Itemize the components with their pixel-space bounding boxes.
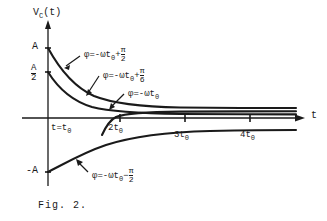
x-tick-label-t0-sub: 0 (67, 127, 71, 135)
figure-caption: Fig. 2. (38, 201, 87, 211)
leader-line-phi-plus-pi-6 (88, 76, 99, 93)
curve-label-phi-plus-pi-2: φ=-ωt0+ π 2 (84, 46, 125, 63)
x-axis-arrowhead (295, 115, 305, 122)
curve-label-phi-plus-pi-6-den: 6 (140, 75, 145, 84)
y-tick-label-A-half-num: A (31, 64, 36, 73)
y-axis-title-arg: (t) (43, 7, 61, 18)
y-tick-label-A: A (32, 42, 38, 52)
curve-label-phi-plus-pi-6: φ=-ωt0+ π 6 (103, 67, 144, 84)
curve-label-phi-plus-pi-2-num: π (121, 46, 126, 54)
x-tick-label-t0-text: t=t (51, 123, 67, 133)
figure-canvas (0, 0, 327, 221)
curve-label-phi-minus-pi-2-num: π (129, 167, 134, 175)
curve-label-phi-plus-pi-2-den: 2 (121, 54, 126, 63)
curve-label-phi-plus-pi-2-prefix: φ=-ωt (84, 50, 111, 60)
leader-line-phi-plus-pi-2 (66, 56, 80, 66)
y-tick-label-A-half: A 2 (31, 64, 36, 84)
x-tick-label-2t0-text: 2t (108, 123, 119, 133)
y-axis-title: VC(t) (33, 8, 61, 20)
x-tick-label-t0: t=t0 (51, 124, 71, 135)
figure-container: VC(t) t A A 2 -A t=t0 2t0 3t0 4t0 φ=-ωt0… (0, 0, 327, 221)
x-tick-label-3t0: 3t0 (174, 131, 189, 142)
y-tick-label-minus-A: -A (26, 166, 38, 176)
curve-label-phi-plus-pi-6-num: π (140, 67, 145, 75)
x-tick-label-2t0-sub: 0 (119, 127, 123, 135)
curve-label-phi-zero-prefix: φ=-ωt (128, 89, 155, 99)
y-tick-label-A-half-den: 2 (31, 73, 36, 83)
curve-label-phi-minus-pi-2-prefix: φ=-ωt (92, 171, 119, 181)
x-tick-label-4t0-sub: 0 (251, 134, 255, 142)
x-tick-label-3t0-sub: 0 (185, 134, 189, 142)
x-axis-title: t (311, 111, 317, 121)
curve-label-phi-zero: φ=-ωt0 (128, 90, 159, 101)
curve-label-phi-minus-pi-2-den: 2 (129, 175, 134, 184)
x-tick-label-2t0: 2t0 (108, 124, 123, 135)
x-tick-label-3t0-text: 3t (174, 130, 185, 140)
y-axis-arrowhead (45, 20, 51, 29)
curve-label-phi-plus-pi-6-prefix: φ=-ωt (103, 71, 130, 81)
curve-label-phi-minus-pi-2: φ=-ωt0− π 2 (92, 167, 133, 184)
leader-arrow-phi-minus-pi-2 (76, 159, 83, 166)
curve-phi-minus-pi-2 (48, 130, 296, 172)
x-tick-label-4t0-text: 4t (240, 130, 251, 140)
curve-label-phi-zero-sub: 0 (155, 93, 159, 101)
x-tick-label-4t0: 4t0 (240, 131, 255, 142)
